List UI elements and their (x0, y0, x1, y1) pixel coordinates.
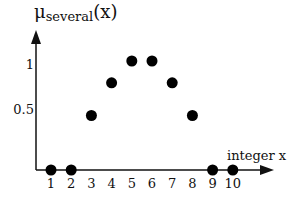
data-points (46, 56, 239, 176)
data-point (46, 165, 57, 176)
data-point (106, 77, 117, 88)
x-tick-label: 3 (81, 176, 101, 191)
data-point (66, 165, 77, 176)
plot-area (0, 0, 292, 202)
x-tick-label: 1 (41, 176, 61, 191)
data-point (126, 56, 137, 67)
data-point (86, 110, 97, 121)
x-tick-label: 10 (223, 176, 243, 191)
x-tick-label: 9 (203, 176, 223, 191)
data-point (207, 165, 218, 176)
x-axis-label: integer x (227, 148, 286, 163)
data-point (147, 56, 158, 67)
data-point (227, 165, 238, 176)
x-axis-arrow-icon (260, 165, 274, 175)
y-axis-arrow-icon (31, 30, 41, 44)
data-point (167, 77, 178, 88)
x-tick-label: 2 (61, 176, 81, 191)
x-tick-label: 6 (142, 176, 162, 191)
data-point (187, 110, 198, 121)
x-tick-label: 8 (182, 176, 202, 191)
x-tick-label: 7 (162, 176, 182, 191)
x-tick-label: 5 (122, 176, 142, 191)
membership-function-chart: μseveral(x) 1 0.5 12345678910 integer x (0, 0, 292, 202)
x-tick-label: 4 (102, 176, 122, 191)
